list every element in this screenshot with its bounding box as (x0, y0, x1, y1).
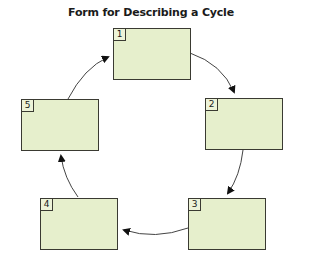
step-number-badge: 1 (114, 29, 126, 41)
step-box-2[interactable]: 2 (205, 98, 283, 150)
arrow-1-to-2 (190, 53, 234, 92)
arrow-2-to-3 (228, 150, 243, 193)
step-number-badge: 4 (41, 199, 53, 211)
step-box-1[interactable]: 1 (113, 28, 191, 80)
step-box-5[interactable]: 5 (21, 99, 99, 151)
step-number-badge: 5 (22, 100, 34, 112)
arrow-3-to-4 (124, 228, 188, 235)
step-number-badge: 3 (189, 199, 201, 211)
step-box-3[interactable]: 3 (188, 198, 266, 250)
arrow-5-to-1 (68, 57, 108, 99)
step-number-badge: 2 (206, 99, 218, 111)
step-box-4[interactable]: 4 (40, 198, 118, 250)
arrow-4-to-5 (61, 156, 78, 197)
